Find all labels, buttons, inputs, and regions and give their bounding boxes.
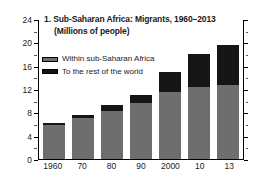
y-tick-label-12: 12 <box>14 85 32 95</box>
bar-segment-rest-of-world <box>130 95 152 103</box>
bar-segment-within-africa <box>43 125 65 159</box>
y-tick-minor-18 <box>34 55 37 56</box>
y-tick-right-24 <box>244 20 248 21</box>
x-tick-label: 2000 <box>156 161 185 171</box>
bar-segment-within-africa <box>217 85 239 159</box>
bar-column <box>159 20 181 159</box>
y-tick-right-14 <box>246 78 249 79</box>
y-tick-minor-22 <box>34 32 37 33</box>
y-tick-major-20 <box>34 43 38 44</box>
bar-column <box>217 20 239 159</box>
bar-segment-rest-of-world <box>217 45 239 85</box>
y-tick-label-8: 8 <box>14 108 32 118</box>
bar-segment-rest-of-world <box>159 72 181 92</box>
y-tick-label-20: 20 <box>14 38 32 48</box>
y-tick-right-2 <box>246 148 249 149</box>
bar-segment-within-africa <box>101 111 123 159</box>
legend-label-rest-of-world: To the rest of the world <box>62 67 143 78</box>
x-axis-labels: 196070809020001013 <box>38 161 244 175</box>
x-tick-label: 80 <box>97 161 126 171</box>
x-tick-label: 70 <box>67 161 96 171</box>
chart-figure: 1. Sub-Saharan Africa: Migrants, 1960–20… <box>0 0 258 186</box>
bar-segment-within-africa <box>159 92 181 159</box>
bar-segment-rest-of-world <box>188 54 210 87</box>
x-tick-label: 1960 <box>38 161 67 171</box>
y-tick-major-16 <box>34 67 38 68</box>
x-axis-line <box>38 159 244 160</box>
bar-column <box>130 20 152 159</box>
y-tick-major-12 <box>34 90 38 91</box>
y-tick-major-4 <box>34 137 38 138</box>
bar-column <box>43 20 65 159</box>
y-tick-minor-14 <box>34 78 37 79</box>
y-tick-right-4 <box>244 137 248 138</box>
y-tick-major-24 <box>34 20 38 21</box>
legend-item-within-africa: Within sub-Saharan Africa <box>42 54 155 65</box>
y-tick-label-24: 24 <box>14 15 32 25</box>
gray-swatch-icon <box>42 57 58 62</box>
black-swatch-icon <box>42 69 58 74</box>
y-tick-label-4: 4 <box>14 132 32 142</box>
y-tick-label-0: 0 <box>14 155 32 165</box>
y-tick-label-16: 16 <box>14 62 32 72</box>
y-tick-right-0 <box>244 160 248 161</box>
bar-segment-within-africa <box>72 118 94 159</box>
plot-area <box>38 20 244 160</box>
y-tick-right-6 <box>246 125 249 126</box>
bar-segment-within-africa <box>130 103 152 159</box>
x-tick-label: 90 <box>126 161 155 171</box>
y-tick-minor-6 <box>34 125 37 126</box>
y-tick-right-18 <box>246 55 249 56</box>
bar-column <box>188 20 210 159</box>
bar-column <box>72 20 94 159</box>
chart-legend: Within sub-Saharan Africa To the rest of… <box>42 54 155 79</box>
x-tick-label: 13 <box>215 161 244 171</box>
x-tick-label: 10 <box>185 161 214 171</box>
y-tick-right-12 <box>244 90 248 91</box>
y-tick-right-20 <box>244 43 248 44</box>
y-tick-right-10 <box>246 102 249 103</box>
bar-segment-within-africa <box>188 87 210 159</box>
y-tick-right-16 <box>244 67 248 68</box>
legend-item-rest-of-world: To the rest of the world <box>42 67 155 78</box>
y-tick-minor-10 <box>34 102 37 103</box>
bar-series-group <box>39 20 243 159</box>
y-tick-minor-2 <box>34 148 37 149</box>
y-tick-right-8 <box>244 113 248 114</box>
y-tick-right-22 <box>246 32 249 33</box>
y-tick-major-8 <box>34 113 38 114</box>
legend-label-within-africa: Within sub-Saharan Africa <box>62 54 155 65</box>
bar-column <box>101 20 123 159</box>
